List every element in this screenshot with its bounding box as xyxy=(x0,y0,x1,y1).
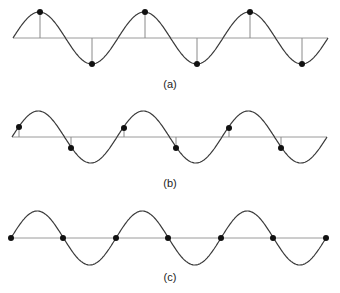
sample-point xyxy=(68,145,74,151)
sampling-diagram: (a) (b) (c) xyxy=(0,0,340,293)
sample-point xyxy=(218,235,224,241)
sample-point xyxy=(247,9,253,15)
panel-c-label: (c) xyxy=(164,271,177,283)
sample-point xyxy=(121,125,127,131)
sample-point xyxy=(194,61,200,67)
sample-point xyxy=(8,235,14,241)
sample-point xyxy=(299,61,305,67)
sample-point xyxy=(89,61,95,67)
panel-b-label: (b) xyxy=(163,177,176,189)
sample-point xyxy=(113,235,119,241)
sample-point xyxy=(270,235,276,241)
sample-point xyxy=(16,124,22,130)
panel-a-label: (a) xyxy=(163,78,176,90)
panel-b-offset-sampling xyxy=(12,111,327,163)
sample-point xyxy=(142,9,148,15)
sample-point xyxy=(323,235,329,241)
sample-point xyxy=(173,145,179,151)
sample-point xyxy=(165,235,171,241)
sample-point xyxy=(278,145,284,151)
sample-point xyxy=(226,125,232,131)
sample-point xyxy=(37,9,43,15)
sample-point xyxy=(60,235,66,241)
panel-c-zero-crossing-sampling xyxy=(8,211,329,265)
panel-a-peak-sampling xyxy=(13,9,328,67)
